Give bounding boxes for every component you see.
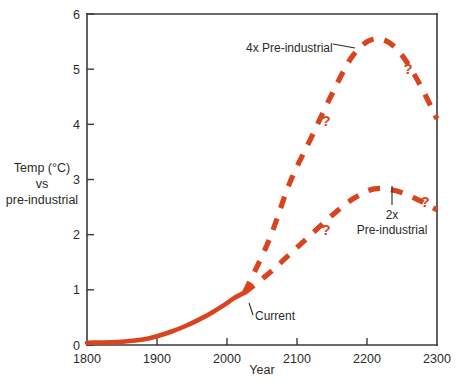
y-axis-title: Temp (°C) vs pre-industrial bbox=[6, 161, 78, 207]
y-tick-label: 0 bbox=[73, 339, 80, 353]
y-axis-title-line-2: vs bbox=[36, 177, 49, 191]
series-line bbox=[87, 293, 245, 343]
chart-canvas: 0123456 180019002000210022002300 4x Pre-… bbox=[0, 0, 460, 385]
annotation-group: 4x Pre-industrial2xPre-industrialCurrent bbox=[246, 41, 427, 323]
y-axis-ticks: 0123456 bbox=[73, 8, 94, 353]
x-tick-label: 1800 bbox=[73, 352, 101, 366]
x-tick-label: 2200 bbox=[353, 352, 381, 366]
question-mark-4x-falling: ? bbox=[403, 60, 412, 77]
plot-frame bbox=[87, 14, 437, 345]
label-current: Current bbox=[255, 309, 296, 323]
label-4x-pre-industrial-leader bbox=[333, 44, 355, 48]
x-axis-title: Year bbox=[249, 363, 274, 377]
question-mark-2x-rising: ? bbox=[321, 221, 330, 238]
y-tick-label: 6 bbox=[73, 8, 80, 22]
label-2x-pre-industrial-line-1: 2x bbox=[386, 208, 399, 222]
y-tick-label: 3 bbox=[73, 173, 80, 187]
x-tick-label: 2000 bbox=[213, 352, 241, 366]
label-2x-pre-industrial-line-2: Pre-industrial bbox=[357, 223, 428, 237]
question-mark-2x-falling: ? bbox=[420, 193, 429, 210]
x-tick-label: 2100 bbox=[283, 352, 311, 366]
label-4x-pre-industrial: 4x Pre-industrial bbox=[246, 41, 333, 55]
label-current-leader bbox=[249, 303, 253, 315]
y-tick-label: 2 bbox=[73, 228, 80, 242]
y-axis-title-line-3: pre-industrial bbox=[6, 193, 78, 207]
data-series-group bbox=[87, 39, 437, 343]
x-tick-label: 2300 bbox=[423, 352, 451, 366]
series-line bbox=[245, 188, 438, 292]
x-tick-label: 1900 bbox=[143, 352, 171, 366]
y-tick-label: 5 bbox=[73, 63, 80, 77]
climate-projection-chart: 0123456 180019002000210022002300 4x Pre-… bbox=[0, 0, 460, 385]
question-mark-4x-rising: ? bbox=[321, 112, 330, 129]
y-tick-label: 4 bbox=[73, 118, 80, 132]
y-tick-label: 1 bbox=[73, 283, 80, 297]
y-axis-title-line-1: Temp (°C) bbox=[14, 161, 70, 175]
